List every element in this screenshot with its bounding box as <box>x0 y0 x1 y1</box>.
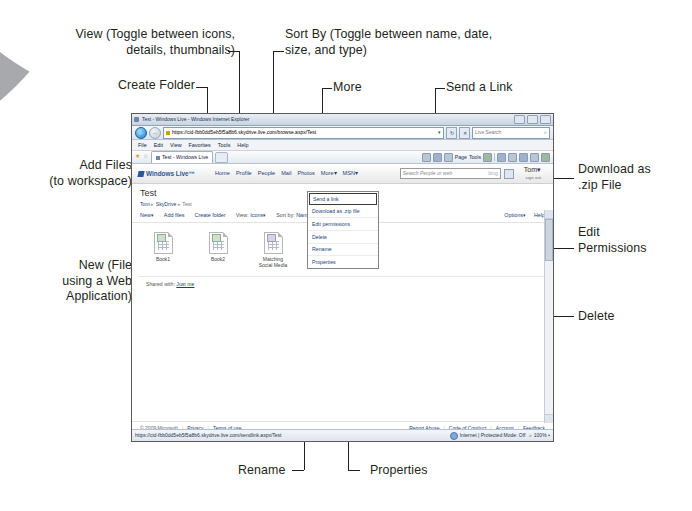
menu-item-rename[interactable]: Rename <box>308 244 378 257</box>
menu-favorites[interactable]: Favorites <box>189 142 211 149</box>
menu-item-send-a-link[interactable]: Send a link <box>309 193 377 205</box>
toolbar-options[interactable]: Options▾ <box>504 212 526 219</box>
nav-more[interactable]: More▾ <box>321 170 337 177</box>
scroll-down-arrow-icon[interactable] <box>545 414 553 423</box>
maximize-button[interactable] <box>527 115 538 124</box>
window-controls <box>514 115 551 124</box>
tab-label: Test - Windows Live <box>162 154 208 161</box>
leader-rename-horizontal <box>292 470 304 471</box>
page-content: Windows Live™ Home Profile People Mail P… <box>132 164 553 434</box>
menu-file[interactable]: File <box>138 142 147 149</box>
favorites-bar-icon[interactable]: ☆ <box>143 153 148 161</box>
safety-icon[interactable] <box>483 153 492 162</box>
menu-tools[interactable]: Tools <box>218 142 231 149</box>
file-grid-icon <box>268 241 279 250</box>
toolbar-new[interactable]: New▾ <box>140 212 154 219</box>
windows-live-logo[interactable]: Windows Live™ <box>138 170 195 178</box>
address-input[interactable]: https://cid-fbb0dd5eb5f5a8b6.skydrive.li… <box>163 127 444 139</box>
file-name: Matching Social Media <box>256 256 290 268</box>
annotation-sort-by: Sort By (Toggle between name, date, size… <box>285 27 545 58</box>
scrollbar-thumb[interactable] <box>545 219 553 261</box>
file-name: Book1 <box>146 256 180 262</box>
nav-msn[interactable]: MSN▾ <box>343 170 358 177</box>
breadcrumb-tom[interactable]: Tom <box>140 201 150 207</box>
toolbar-view-value[interactable]: Icons▾ <box>250 212 266 218</box>
annotation-more: More <box>333 80 362 96</box>
toolbar-create-folder[interactable]: Create folder <box>194 212 225 219</box>
nav-people[interactable]: People <box>258 170 275 177</box>
nav-mail[interactable]: Mail <box>281 170 291 177</box>
photos-icon[interactable] <box>519 153 528 162</box>
mail-icon[interactable] <box>508 153 517 162</box>
ie-logo-icon <box>134 117 139 122</box>
file-grid-icon <box>158 241 169 250</box>
minimize-button[interactable] <box>514 115 525 124</box>
breadcrumb-separator: ▸ <box>151 201 154 207</box>
site-search: Search People or web bing <box>400 168 514 179</box>
messenger-icon[interactable] <box>497 153 506 162</box>
scroll-up-arrow-icon[interactable] <box>545 210 553 219</box>
stop-button[interactable]: ✕ <box>459 127 470 139</box>
annotation-delete: Delete <box>578 309 614 325</box>
feeds-icon[interactable] <box>433 153 442 162</box>
command-tools[interactable]: Tools <box>469 154 481 161</box>
toolbar-add-files[interactable]: Add files <box>164 212 185 219</box>
browser-title-bar: Test - Windows Live - Windows Internet E… <box>132 114 553 126</box>
toolbar-right-group: Options▾ Help <box>504 212 545 219</box>
annotation-download-zip: Download as .zip File <box>578 162 688 193</box>
annotation-create-folder: Create Folder <box>20 78 195 94</box>
annotation-edit-permissions: Edit Permissions <box>578 225 688 256</box>
zoom-level[interactable]: ⌕ 100% ▾ <box>529 432 550 438</box>
menu-item-edit-permissions[interactable]: Edit permissions <box>308 218 378 231</box>
site-search-input[interactable]: Search People or web bing <box>400 168 501 179</box>
close-button[interactable] <box>540 115 551 124</box>
site-search-go-icon[interactable] <box>504 169 514 179</box>
list-item[interactable]: Matching Social Media <box>256 232 290 268</box>
nav-photos[interactable]: Photos <box>297 170 314 177</box>
list-item[interactable]: Book1 <box>146 232 180 268</box>
menu-item-download-zip[interactable]: Download as .zip file <box>308 206 378 219</box>
ssl-lock-icon <box>166 131 170 135</box>
annotation-send-a-link: Send a Link <box>446 80 513 96</box>
site-search-placeholder: Search People or web <box>403 170 452 176</box>
sign-out-link[interactable]: sign out <box>526 175 541 181</box>
print-icon[interactable] <box>444 153 453 162</box>
menu-edit[interactable]: Edit <box>154 142 163 149</box>
annotation-add-files: Add Files (to workspace) <box>6 158 132 189</box>
toolbar-view-label: View: <box>236 212 249 218</box>
breadcrumb-skydrive[interactable]: SkyDrive <box>156 201 177 207</box>
user-menu[interactable]: Tom▾ sign out <box>524 166 541 180</box>
back-button[interactable]: ← <box>135 127 147 139</box>
refresh-button[interactable]: ↻ <box>446 127 457 139</box>
command-page[interactable]: Page <box>455 154 467 161</box>
add-favorite-icon[interactable]: ★ <box>135 153 140 161</box>
windows-live-nav: Home Profile People Mail Photos More▾ MS… <box>215 170 358 177</box>
file-grid-icon <box>213 241 224 250</box>
browser-search-input[interactable]: Live Search ⌕ <box>472 127 550 139</box>
leader-properties-horizontal <box>348 470 360 471</box>
nav-home[interactable]: Home <box>215 170 230 177</box>
browser-command-bar: ★ ☆ Test - Windows Live Page Tools <box>132 151 553 164</box>
shared-with-label: Shared with: <box>146 281 175 287</box>
forward-button[interactable]: → <box>149 127 161 139</box>
new-tab-button[interactable] <box>215 152 228 163</box>
menu-item-delete[interactable]: Delete <box>308 231 378 244</box>
shared-with-value[interactable]: Just me <box>176 281 194 287</box>
back-icon: ← <box>136 128 146 138</box>
list-item[interactable]: Book2 <box>201 232 235 268</box>
menu-item-properties[interactable]: Properties <box>308 256 378 268</box>
security-zone[interactable]: Internet | Protected Mode: Off <box>450 432 526 440</box>
nav-profile[interactable]: Profile <box>236 170 252 177</box>
toolbar-view[interactable]: View: Icons▾ <box>236 212 266 219</box>
writer-icon[interactable] <box>530 153 539 162</box>
menu-view[interactable]: View <box>170 142 182 149</box>
tab-test-windows-live[interactable]: Test - Windows Live <box>151 151 213 163</box>
toolbar-extra-icon[interactable] <box>541 153 550 162</box>
excel-file-icon <box>154 232 173 254</box>
home-icon[interactable] <box>422 153 431 162</box>
search-icon[interactable]: ⌕ <box>544 129 547 135</box>
user-name[interactable]: Tom▾ <box>524 166 541 175</box>
page-scrollbar[interactable] <box>544 210 553 423</box>
menu-help[interactable]: Help <box>237 142 248 149</box>
address-dropdown-icon[interactable]: ▾ <box>438 129 441 135</box>
